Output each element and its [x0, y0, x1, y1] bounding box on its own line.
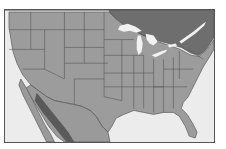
map-svg: [5, 10, 214, 142]
map-frame: [4, 9, 215, 143]
